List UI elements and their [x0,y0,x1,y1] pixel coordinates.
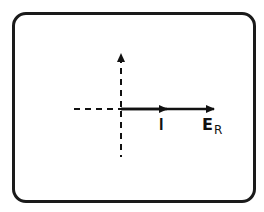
phasor-i-label: I [159,117,163,133]
phasor-i-label-text: I [159,115,163,134]
phasor-er-label-subscript: R [214,123,222,137]
phasor-er-label: ER [202,117,222,133]
phasor-er-label-main: E [202,115,213,134]
phasor-diagram [0,0,264,212]
